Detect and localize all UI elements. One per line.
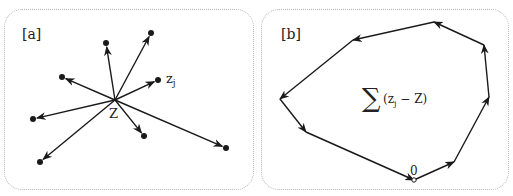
polygon-edge-arrow	[306, 132, 414, 180]
point-dot	[223, 145, 229, 151]
vector-arrow	[115, 37, 149, 100]
vector-arrow	[107, 47, 115, 100]
polygon-edge-arrow	[353, 22, 434, 40]
point-dot	[141, 133, 147, 139]
sum-expression: (zj − Z)	[383, 92, 427, 108]
polygon-edge-arrow	[484, 45, 489, 97]
point-dot	[59, 74, 65, 80]
polygon-edge-arrow	[280, 99, 306, 132]
vector-diagram: Z zj ∑ (zj − Z) 0	[0, 0, 513, 196]
vector-arrow	[115, 100, 141, 133]
point-dot	[103, 40, 109, 46]
point-dot	[37, 159, 43, 165]
vector-arrow	[66, 79, 115, 100]
point-label-zj: zj	[166, 71, 176, 88]
point-dot	[148, 30, 154, 36]
point-dot	[155, 77, 161, 83]
polygon-edge-arrow	[454, 97, 489, 162]
polygon-edge-arrow	[280, 40, 353, 99]
origin-label: 0	[410, 164, 418, 178]
point-dot	[30, 116, 36, 122]
panel-a-vectors	[30, 30, 229, 165]
vector-arrow	[115, 100, 222, 146]
sum-symbol: ∑	[362, 83, 381, 113]
polygon-edge-arrow	[414, 162, 454, 180]
origin-marker	[412, 178, 416, 182]
polygon-edge-arrow	[434, 22, 484, 45]
center-label-Z: Z	[109, 106, 118, 121]
vector-arrow	[115, 82, 154, 100]
